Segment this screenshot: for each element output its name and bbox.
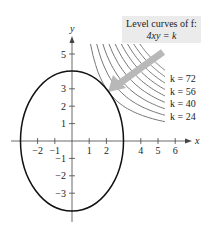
y-tick-label: 1 — [61, 118, 66, 129]
curve-label-k24: k = 24 — [170, 111, 196, 122]
y-tick-label: 3 — [61, 83, 66, 94]
title-line-2: 4xy = k — [146, 30, 177, 41]
curve-label-k72: k = 72 — [170, 73, 196, 84]
x-tick-label: 6 — [173, 145, 178, 156]
curve-label-k40: k = 40 — [170, 98, 196, 109]
curve-labels: k = 72 k = 56 k = 40 k = 24 — [170, 73, 196, 122]
x-tick-label: 4 — [138, 145, 143, 156]
y-tick-label: −1 — [55, 153, 66, 164]
y-tick-label: −2 — [55, 170, 66, 181]
y-axis-arrow-icon — [70, 36, 75, 43]
y-tick-label: −3 — [55, 188, 66, 199]
x-tick-label: 2 — [104, 145, 109, 156]
x-tick-label: 1 — [87, 145, 92, 156]
y-tick-label: 2 — [61, 101, 66, 112]
direction-arrow — [108, 52, 163, 92]
level-curves-figure: Level curves of f: 4xy = k x y −2−112456… — [0, 0, 211, 234]
curve-label-k56: k = 56 — [170, 86, 196, 97]
y-tick-label: 5 — [61, 49, 66, 60]
x-tick-label: −2 — [32, 145, 43, 156]
arrow-shaft — [120, 52, 163, 83]
x-axis-label: x — [194, 135, 200, 146]
x-tick-label: 5 — [156, 145, 161, 156]
title-line-1: Level curves of f: — [126, 18, 197, 29]
x-axis-arrow-icon — [185, 139, 192, 144]
y-axis-label: y — [69, 23, 75, 34]
title-box: Level curves of f: 4xy = k — [122, 16, 201, 43]
